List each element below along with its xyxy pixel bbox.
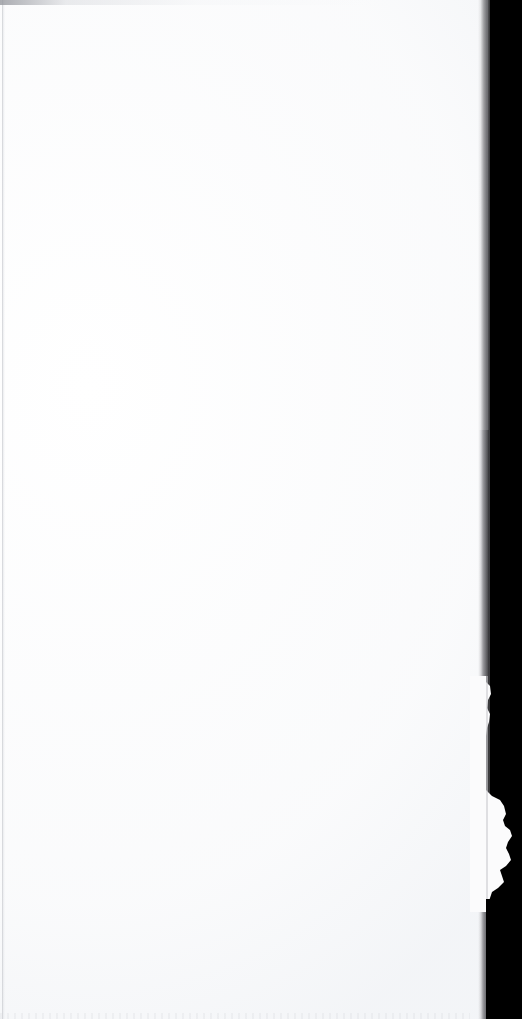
paper-tone-overlay bbox=[0, 0, 488, 1019]
left-binding-crease bbox=[2, 0, 5, 1019]
scanned-page-canvas bbox=[0, 0, 522, 1019]
bottom-edge-speckle bbox=[0, 1013, 470, 1019]
top-edge-smudge bbox=[0, 0, 470, 5]
bottom-right-black-wedge bbox=[486, 899, 522, 1019]
black-field bbox=[490, 0, 522, 1019]
paper-sheet bbox=[0, 0, 488, 1019]
